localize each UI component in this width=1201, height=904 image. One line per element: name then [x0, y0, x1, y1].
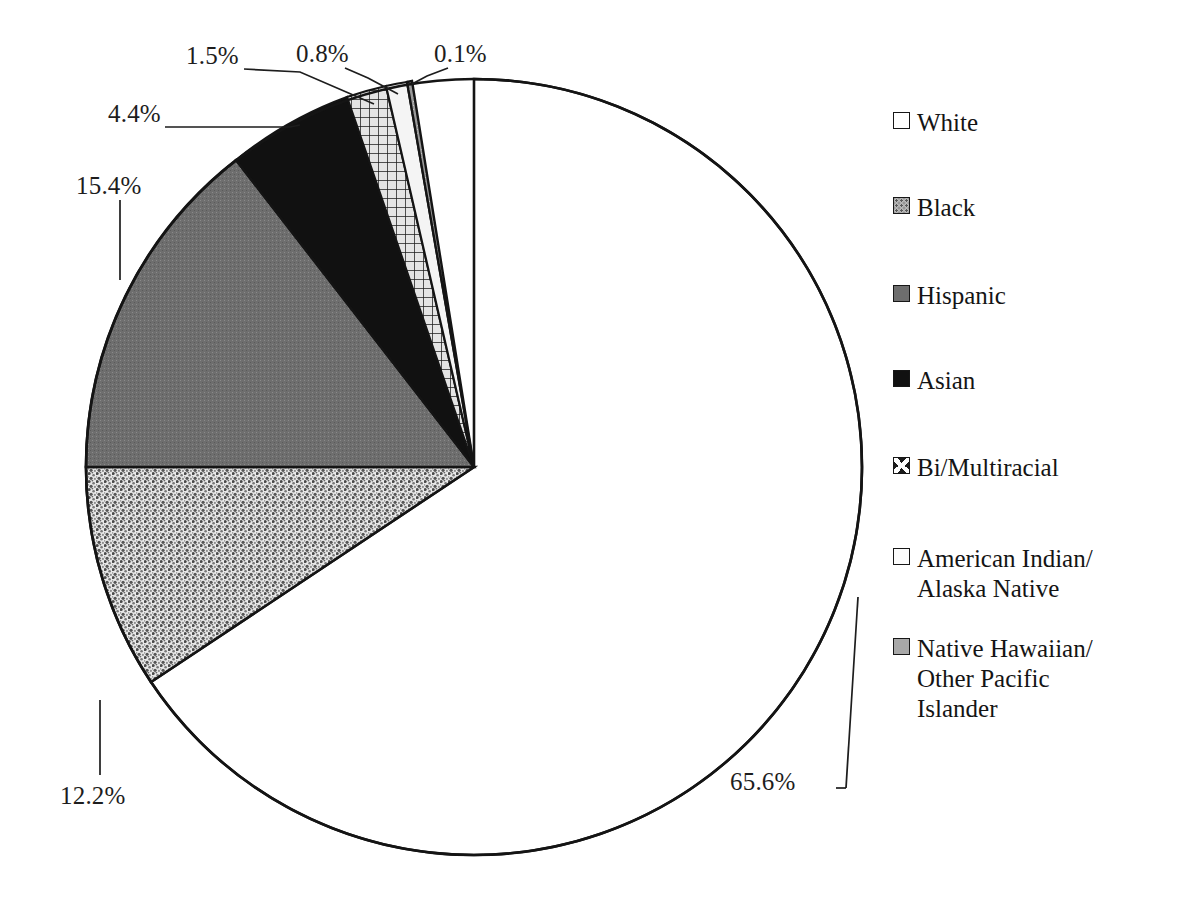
legend-item-white[interactable]: White	[893, 108, 978, 138]
legend-label-american-indian-alt: Bi/Multiracial	[917, 453, 1059, 483]
pct-label-12-2: 12.2%	[60, 782, 126, 810]
legend-swatch-asian-icon	[893, 370, 910, 387]
pct-label-0-8: 0.8%	[296, 40, 349, 68]
legend-swatch-american-indian-icon	[893, 548, 910, 565]
pct-label-4-4: 4.4%	[108, 100, 161, 128]
legend-swatch-bimultiracial-icon	[893, 457, 910, 474]
legend-item-native-hawaiian[interactable]: Native Hawaiian/ Other Pacific Islander	[893, 634, 1093, 724]
pct-label-65-6: 65.6%	[730, 768, 796, 796]
legend-swatch-native-hawaiian-icon	[893, 638, 910, 655]
legend-label-hispanic: Hispanic	[917, 281, 1006, 311]
legend-item-american-indian[interactable]: American Indian/ Alaska Native	[893, 544, 1093, 604]
leader-line-4-4	[165, 125, 300, 127]
legend-item-hispanic[interactable]: Hispanic	[893, 281, 1006, 311]
legend-swatch-hispanic-icon	[893, 285, 910, 302]
pct-label-15-4: 15.4%	[76, 172, 142, 200]
legend-label-black: Black	[917, 193, 975, 223]
legend-label-american-indian: American Indian/ Alaska Native	[917, 544, 1093, 604]
legend-swatch-black-icon	[893, 197, 910, 214]
legend-swatch-white-icon	[893, 112, 910, 129]
pct-label-1-5: 1.5%	[186, 42, 239, 70]
legend-label-asian: Asian	[917, 366, 975, 396]
legend-label-white: White	[917, 108, 978, 138]
legend-item-black[interactable]: Black	[893, 193, 975, 223]
legend-item-asian[interactable]: Asian	[893, 366, 975, 396]
legend-label-native-hawaiian: Native Hawaiian/ Other Pacific Islander	[917, 634, 1093, 724]
pct-label-0-1: 0.1%	[434, 40, 487, 68]
legend-item-bimultiracial[interactable]: Bi/Multiracial	[893, 453, 1059, 483]
leader-line-65-6	[846, 597, 858, 788]
pie-chart-figure: 1.5% 0.8% 0.1% 4.4% 15.4% 12.2% 65.6% Wh…	[0, 0, 1201, 904]
pie-chart-canvas	[0, 0, 1201, 904]
